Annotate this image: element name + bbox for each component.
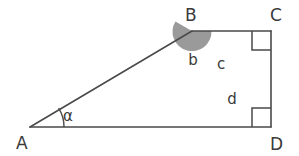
right-angle-mark-d xyxy=(252,108,271,127)
segment-ab xyxy=(30,31,192,127)
right-angle-mark-c xyxy=(252,31,271,50)
segment-label-d: d xyxy=(227,90,237,108)
vertex-label-b: B xyxy=(185,5,197,25)
vertex-label-c: C xyxy=(270,5,282,25)
vertex-label-d: D xyxy=(270,134,283,154)
vertex-label-a: A xyxy=(16,133,28,153)
angle-label-alpha: α xyxy=(63,107,73,125)
shaded-angle-b xyxy=(173,21,212,51)
segment-label-c: c xyxy=(217,55,225,73)
angle-label-b: b xyxy=(188,51,198,69)
geometry-canvas: A B C D c d α b xyxy=(0,0,299,156)
geometry-diagram: A B C D c d α b xyxy=(0,0,299,156)
